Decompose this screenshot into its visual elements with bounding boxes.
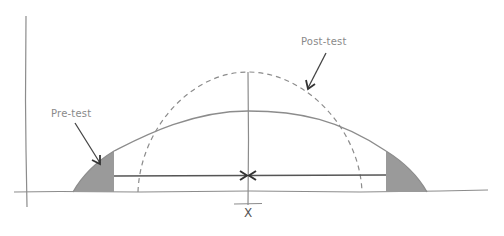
pre-test-curve: [73, 111, 427, 192]
left-tail-shaded: [73, 151, 114, 192]
right-range-arrow: [250, 175, 386, 176]
post-test-label: Post-test: [301, 36, 347, 47]
mean-tick: [234, 204, 262, 205]
left-range-arrow: [114, 176, 246, 177]
post-test-pointer: [308, 53, 326, 88]
pre-test-pointer: [75, 123, 100, 163]
mean-x-label: X: [244, 206, 252, 220]
pre-test-label: Pre-test: [51, 108, 91, 119]
y-axis: [26, 16, 28, 207]
mean-line: [248, 72, 249, 205]
right-tail-shaded: [386, 151, 427, 192]
